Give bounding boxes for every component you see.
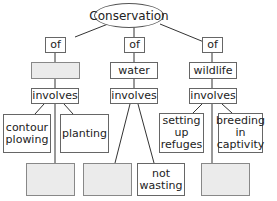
involves-box-middle: involves (110, 88, 158, 104)
example-setting-up-refuges: setting up refuges (159, 113, 204, 153)
involves-box-left: involves (31, 88, 79, 104)
of-box-right: of (202, 37, 223, 53)
of-box-left: of (45, 37, 66, 53)
involves-box-right: involves (189, 88, 237, 104)
answer-blank-left[interactable] (26, 163, 75, 196)
subject-blank-left[interactable] (31, 62, 80, 79)
example-breeding-in-captivity: breeding in captivity (218, 113, 263, 153)
example-contour-plowing: contour plowing (3, 114, 51, 153)
example-not-wasting: not wasting (137, 163, 185, 196)
answer-blank-middle[interactable] (83, 163, 132, 196)
subject-water: water (110, 62, 158, 79)
answer-blank-right[interactable] (201, 163, 250, 196)
example-planting: planting (60, 114, 109, 153)
subject-wildlife: wildlife (189, 62, 237, 79)
root-conservation: Conservation (94, 3, 164, 28)
of-box-middle: of (124, 37, 145, 53)
